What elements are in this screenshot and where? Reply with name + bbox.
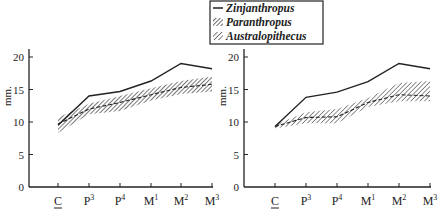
y-tick-label: 0 <box>19 181 25 193</box>
y-tick-label: 5 <box>19 149 25 161</box>
x-category-label: M1 <box>144 193 159 208</box>
x-category-label: M3 <box>205 193 220 208</box>
y-tick-label: 0 <box>234 181 240 193</box>
legend-label-australopithecus: Australopithecus <box>225 30 307 43</box>
chart-right-australopithecus: 05101520mm.CP3P4M1M2M3 <box>216 49 437 208</box>
x-category-label: P4 <box>332 193 343 208</box>
legend-label-paranthropus: Paranthropus <box>226 16 292 29</box>
y-axis-label: mm. <box>1 86 13 106</box>
x-category-label: C <box>54 194 62 208</box>
legend-label-zinjanthropus: Zinjanthropus <box>225 2 295 15</box>
y-tick-label: 10 <box>228 116 240 128</box>
y-tick-label: 20 <box>13 51 25 63</box>
x-category-label: P3 <box>84 193 95 208</box>
y-axis-label: mm. <box>216 86 228 106</box>
x-category-label: P3 <box>301 193 312 208</box>
legend-swatch-paranthropus <box>213 18 223 26</box>
chart-canvas: 05101520mm.CP3P4M1M2M3 05101520mm.CP3P4M… <box>0 0 442 212</box>
x-category-label: C <box>271 194 279 208</box>
range-band-paranthropus <box>58 77 212 134</box>
x-category-label: P4 <box>115 193 126 208</box>
y-tick-label: 15 <box>13 84 25 96</box>
x-category-label: M2 <box>392 193 407 208</box>
y-tick-label: 20 <box>228 51 240 63</box>
legend-swatch-australopithecus <box>213 32 223 40</box>
x-category-label: M2 <box>174 193 189 208</box>
x-category-label: M1 <box>361 193 376 208</box>
x-category-label: M3 <box>423 193 438 208</box>
y-tick-label: 15 <box>228 84 240 96</box>
y-tick-label: 10 <box>13 116 25 128</box>
y-tick-label: 5 <box>234 149 240 161</box>
legend: ZinjanthropusParanthropusAustralopithecu… <box>210 1 323 44</box>
chart-left-paranthropus: 05101520mm.CP3P4M1M2M3 <box>1 49 219 208</box>
